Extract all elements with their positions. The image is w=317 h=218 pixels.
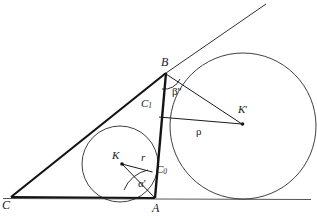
segment-b-kprime-bisector	[166, 74, 242, 124]
label-inradius-r: r	[141, 152, 145, 163]
incenter-dot	[120, 162, 124, 166]
label-vertex-c: C	[2, 199, 10, 211]
baseline-extended	[3, 199, 311, 200]
label-exradius-rho: ρ	[196, 126, 202, 137]
label-point-c1: C1	[141, 98, 152, 110]
label-angle-alpha-prime: '	[144, 177, 146, 189]
label-excenter-prime: '	[245, 103, 247, 115]
figure-canvas	[0, 0, 317, 218]
incircle	[82, 126, 158, 202]
label-angle-beta: β''	[172, 86, 182, 97]
segment-c1-kprime-exradius	[159, 117, 242, 124]
label-excenter-kprime: K'	[238, 104, 247, 115]
excenter-dot	[241, 122, 245, 126]
label-vertex-a: A	[152, 202, 159, 214]
label-angle-alpha: α'	[138, 178, 146, 189]
label-point-c0: C0	[156, 164, 167, 176]
tangent-ray-cb-extended	[166, 4, 266, 73]
excircle	[170, 53, 316, 199]
label-vertex-b: B	[161, 56, 168, 68]
triangle-side-ca	[11, 197, 155, 198]
label-angle-beta-prime: ''	[178, 85, 182, 97]
geometry-figure: B C A C1 C0 K K' r ρ α' β''	[0, 0, 317, 218]
triangle-side-ab	[155, 73, 166, 198]
label-point-c1-subscript: 1	[148, 101, 152, 110]
label-incenter-k: K	[112, 150, 119, 161]
label-point-c0-subscript: 0	[163, 167, 167, 176]
